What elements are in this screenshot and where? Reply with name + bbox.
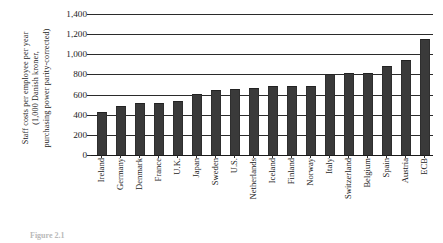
x-axis-label-austria: Austria (400, 158, 410, 183)
bar-belgium (363, 73, 373, 155)
x-label-slot-11: Norway (304, 158, 315, 228)
x-axis-label-finland: Finland (286, 158, 296, 184)
bar-japan (192, 94, 202, 155)
x-axis-label-spain: Spain (381, 158, 391, 178)
bar-norway (306, 86, 316, 155)
y-axis-title-line-2: (1,000 Danish kroner, (32, 29, 42, 148)
x-axis-label-france: France (153, 158, 163, 181)
x-label-slot-7: U.S. (228, 158, 239, 228)
bar-series (91, 14, 433, 155)
figure-caption: Figure 2.1 (30, 231, 430, 243)
x-label-slot-15: Spain (380, 158, 391, 228)
bar-france (154, 103, 164, 155)
y-tick-mark-0 (87, 155, 91, 156)
bar-spain (382, 66, 392, 155)
bar-ecb (420, 39, 430, 155)
bar-u-s (230, 89, 240, 155)
bar-sweden (211, 90, 221, 155)
x-label-slot-12: Italy (323, 158, 334, 228)
plot-area: 02004006008001,0001,2001,400 (91, 14, 433, 155)
x-axis-label-iceland: Iceland (267, 158, 277, 183)
bar-finland (287, 86, 297, 155)
bar-italy (325, 74, 335, 155)
y-tick-label-600: 600 (73, 90, 87, 100)
x-label-slot-4: U.K. (171, 158, 182, 228)
y-tick-label-200: 200 (73, 130, 87, 140)
x-axis-label-sweden: Sweden (210, 158, 220, 185)
bar-austria (401, 60, 411, 155)
y-tick-label-800: 800 (73, 69, 87, 79)
bar-switzerland (344, 73, 354, 155)
y-axis-title-text: Staff costs per employee per year (1,000… (21, 29, 52, 148)
figure-number: Figure 2.1 (30, 231, 65, 240)
x-label-slot-10: Finland (285, 158, 296, 228)
x-label-slot-2: Denmark (133, 158, 144, 228)
bar-denmark (135, 103, 145, 155)
y-tick-label-1200: 1,200 (66, 29, 87, 39)
x-axis-label-germany: Germany (115, 158, 125, 190)
x-axis-label-u-k: U.K. (172, 158, 182, 175)
bar-germany (116, 106, 126, 155)
x-label-slot-14: Belgium (361, 158, 372, 228)
x-axis-label-netherlands: Netherlands (248, 158, 258, 200)
x-axis-label-ireland: Ireland (96, 158, 106, 182)
y-tick-label-400: 400 (73, 110, 87, 120)
bar-netherlands (249, 88, 259, 155)
bar-ireland (97, 112, 107, 155)
bar-iceland (268, 86, 278, 155)
x-label-slot-8: Netherlands (247, 158, 258, 228)
gridline-0 (91, 155, 433, 156)
x-axis-label-u-s: U.S. (229, 158, 239, 173)
x-label-slot-3: France (152, 158, 163, 228)
x-label-slot-0: Ireland (95, 158, 106, 228)
x-label-slot-1: Germany (114, 158, 125, 228)
x-label-slot-5: Japan (190, 158, 201, 228)
x-label-slot-17: ECB (418, 158, 429, 228)
bar-u-k (173, 101, 183, 155)
y-axis-title-line-1: Staff costs per employee per year (21, 29, 31, 148)
x-axis-label-switzerland: Switzerland (343, 158, 353, 199)
x-axis-label-norway: Norway (305, 158, 315, 186)
x-label-slot-9: Iceland (266, 158, 277, 228)
x-axis-label-belgium: Belgium (362, 158, 372, 188)
chart-figure: Staff costs per employee per year (1,000… (0, 0, 443, 243)
y-tick-label-1000: 1,000 (66, 49, 87, 59)
x-axis-label-ecb: ECB (419, 158, 429, 175)
x-axis-label-denmark: Denmark (134, 158, 144, 190)
x-label-slot-16: Austria (399, 158, 410, 228)
y-tick-label-1400: 1,400 (66, 9, 87, 19)
x-label-slot-13: Switzerland (342, 158, 353, 228)
y-axis-title: Staff costs per employee per year (1,000… (2, 4, 72, 172)
x-axis-label-italy: Italy (324, 158, 334, 174)
x-axis-labels: IrelandGermanyDenmarkFranceU.K.JapanSwed… (91, 158, 433, 228)
x-axis-label-japan: Japan (191, 158, 201, 178)
y-axis-title-line-3: purchasing power parity-corrected) (42, 29, 52, 148)
x-label-slot-6: Sweden (209, 158, 220, 228)
